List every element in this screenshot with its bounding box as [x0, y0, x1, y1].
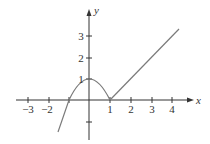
function-graph: −3 −2 1 2 3 4 3 2 1 x y — [0, 0, 210, 144]
y-axis-arrow-icon — [87, 9, 92, 16]
x-tick-label: 1 — [107, 103, 113, 115]
y-tick-label: 3 — [78, 30, 84, 42]
x-tick-label: 3 — [149, 103, 155, 115]
y-tick-label: 2 — [78, 52, 84, 64]
x-tick-label: 2 — [128, 103, 134, 115]
left-line-segment — [58, 100, 69, 132]
right-line-segment — [110, 29, 179, 100]
x-axis-label: x — [195, 94, 201, 106]
y-tick-label: 1 — [78, 73, 84, 85]
x-tick-label: −2 — [41, 103, 53, 115]
x-tick-label: 4 — [169, 103, 175, 115]
y-axis-label: y — [93, 4, 99, 16]
x-axis-arrow-icon — [187, 98, 194, 103]
x-tick-label: −3 — [22, 103, 34, 115]
